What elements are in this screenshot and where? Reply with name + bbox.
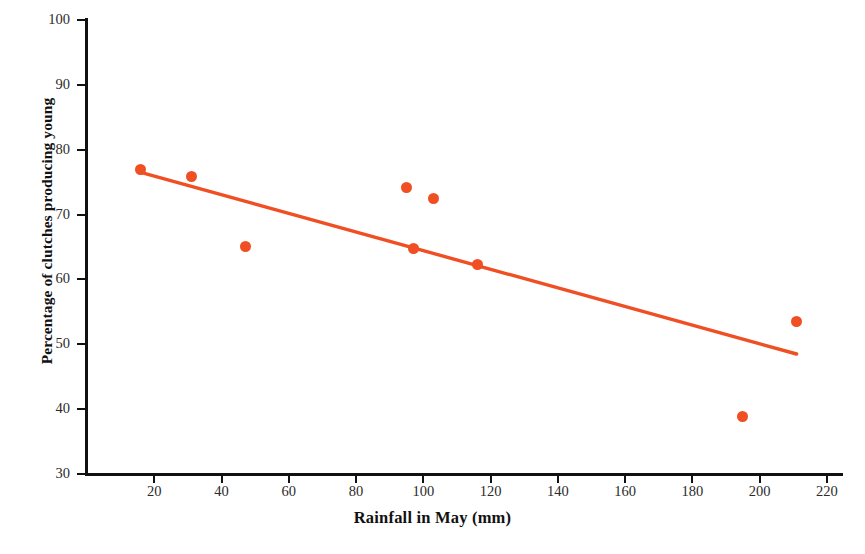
data-point [472, 259, 483, 270]
data-point [408, 243, 419, 254]
data-point [737, 411, 748, 422]
scatter-plot: Percentage of clutches producing young R… [0, 0, 865, 554]
data-point [791, 316, 802, 327]
data-points-layer [0, 0, 865, 554]
data-point [428, 193, 439, 204]
data-point [135, 164, 146, 175]
data-point [401, 182, 412, 193]
data-point [186, 171, 197, 182]
data-point [240, 241, 251, 252]
